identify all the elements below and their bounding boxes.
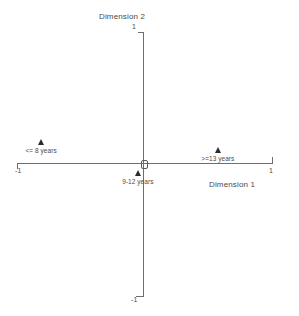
y-axis-title: Dimension 2 [99,12,145,21]
data-point-label: >=13 years [201,155,234,162]
x-axis-max-tick-label: 1 [269,167,273,174]
y-axis-min-tick-label: -1 [131,296,137,303]
x-axis-max-tick-mark [272,157,273,164]
triangle-marker [38,139,44,145]
triangle-marker [215,147,221,153]
scatter-plot-figure: -1 1 1 -1 Dimension 2 Dimension 1 <= 8 y… [0,0,299,316]
y-axis-max-tick-label: 1 [132,23,136,30]
x-axis-min-tick-label: -1 [15,167,21,174]
data-point-label: <= 8 years [25,147,56,154]
y-axis-max-tick-mark [138,32,144,33]
data-point-label: 9-12 years [122,178,153,185]
origin-point-marker [141,160,148,169]
triangle-marker [135,170,141,176]
x-axis-title: Dimension 1 [209,180,255,189]
